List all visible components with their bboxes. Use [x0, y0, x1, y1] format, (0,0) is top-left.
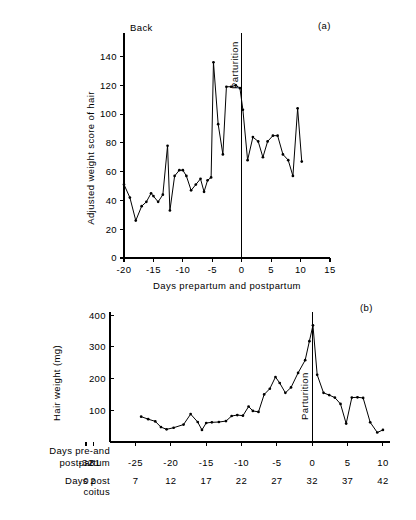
- annotation-back: Back: [130, 22, 153, 33]
- data-point: [182, 169, 185, 172]
- panel-b-row1-label-line2: postpartum: [59, 457, 110, 468]
- y-tick-label: 40: [106, 195, 117, 206]
- data-point: [272, 134, 275, 137]
- data-point: [268, 387, 271, 390]
- x-tick-label-prepartum: -25: [128, 457, 143, 468]
- data-point: [161, 193, 164, 196]
- x-tick-label-postcoitus: 32: [307, 475, 318, 486]
- data-point: [210, 176, 213, 179]
- panel-a-annotations: BackParturition: [130, 22, 240, 89]
- data-point: [178, 169, 181, 172]
- data-point: [362, 397, 365, 400]
- x-tick-label: 0: [239, 264, 245, 275]
- x-tick-label: -15: [146, 264, 161, 275]
- data-point: [123, 183, 126, 186]
- data-point: [247, 405, 250, 408]
- panel-b-annotations: Parturition: [299, 372, 310, 420]
- x-tick-label-postcoitus: 7: [133, 475, 139, 486]
- annotation-parturition: Parturition: [229, 41, 240, 89]
- y-tick-label: 400: [89, 310, 106, 321]
- panel-a-data-series: [123, 61, 303, 222]
- data-point: [157, 201, 160, 204]
- data-point: [160, 426, 163, 429]
- data-point: [145, 201, 148, 204]
- panel-b-y-axis-title: Hair weight (mg): [51, 345, 62, 421]
- y-tick-label: 20: [106, 224, 117, 235]
- data-point: [328, 394, 331, 397]
- data-point: [154, 420, 157, 423]
- data-point: [206, 179, 209, 182]
- figure-root: Adjusted weight score of hair (a) 020406…: [0, 0, 416, 520]
- data-point: [189, 413, 192, 416]
- y-tick-label: 140: [100, 51, 117, 62]
- data-point: [246, 159, 249, 162]
- panel-b-row2-label-line1: Days post: [65, 475, 110, 486]
- data-point: [129, 196, 132, 199]
- data-line-path: [124, 62, 302, 220]
- data-point: [251, 410, 254, 413]
- x-tick-label-postcoitus: 42: [377, 475, 388, 486]
- data-point: [190, 189, 193, 192]
- x-tick-label-prepartum: 0: [309, 457, 315, 468]
- data-point: [322, 392, 325, 395]
- data-point: [284, 392, 287, 395]
- data-point: [376, 431, 379, 434]
- x-tick-label: 5: [268, 264, 274, 275]
- data-point: [339, 403, 342, 406]
- panel-b-data-series: [140, 324, 384, 434]
- data-point: [242, 414, 245, 417]
- panel-a-y-ticks: 020406080100120140: [100, 51, 124, 263]
- data-point: [194, 183, 197, 186]
- data-point: [165, 428, 168, 431]
- data-point: [147, 418, 150, 421]
- y-tick-label: 100: [89, 405, 106, 416]
- data-point: [345, 422, 348, 425]
- data-point: [205, 422, 208, 425]
- panel-b-svg: Hair weight (mg) (b) 100200300400 -320-3…: [0, 295, 416, 520]
- data-point: [185, 175, 188, 178]
- x-tick-label: -10: [175, 264, 190, 275]
- x-tick-label: -20: [117, 264, 132, 275]
- data-point: [257, 411, 260, 414]
- data-point: [292, 175, 295, 178]
- data-point: [196, 421, 199, 424]
- data-point: [263, 393, 266, 396]
- y-tick-label: 0: [111, 252, 117, 263]
- data-point: [334, 396, 337, 399]
- x-tick-label-prepartum: 10: [377, 457, 388, 468]
- data-point: [304, 359, 307, 362]
- data-point: [266, 140, 269, 143]
- data-point: [257, 140, 260, 143]
- panel-a-x-ticks: -20-15-10-5051015: [117, 258, 336, 275]
- x-tick-label-postcoitus: 12: [165, 475, 176, 486]
- data-point: [218, 421, 221, 424]
- data-point: [316, 373, 319, 376]
- data-point: [173, 175, 176, 178]
- data-point: [222, 153, 225, 156]
- data-point: [274, 376, 277, 379]
- panel-a-vertical-rules: [124, 33, 242, 258]
- chart-panel-a: Adjusted weight score of hair (a) 020406…: [0, 0, 416, 295]
- panel-b-axes: [110, 312, 390, 442]
- data-line-path: [141, 325, 383, 432]
- y-tick-label: 60: [106, 166, 117, 177]
- y-tick-label: 200: [89, 373, 106, 384]
- annotation-parturition: Parturition: [299, 372, 310, 420]
- data-point: [356, 396, 359, 399]
- x-tick-label-prepartum: -20: [163, 457, 178, 468]
- x-tick-label-prepartum: -5: [272, 457, 281, 468]
- chart-panel-b: Hair weight (mg) (b) 100200300400 -320-3…: [0, 295, 416, 520]
- x-tick-label: -5: [208, 264, 217, 275]
- data-point: [225, 85, 228, 88]
- data-point: [201, 429, 204, 432]
- panel-a-y-axis-title: Adjusted weight score of hair: [85, 91, 96, 225]
- data-point: [169, 209, 172, 212]
- data-point: [172, 426, 175, 429]
- panel-b-row1-label-line1: Days pre-and: [49, 445, 110, 456]
- data-point: [236, 414, 239, 417]
- x-tick-label-prepartum: 5: [345, 457, 351, 468]
- data-point: [369, 421, 372, 424]
- data-point: [212, 61, 215, 64]
- data-point: [230, 415, 233, 418]
- x-tick-label-prepartum: -10: [234, 457, 249, 468]
